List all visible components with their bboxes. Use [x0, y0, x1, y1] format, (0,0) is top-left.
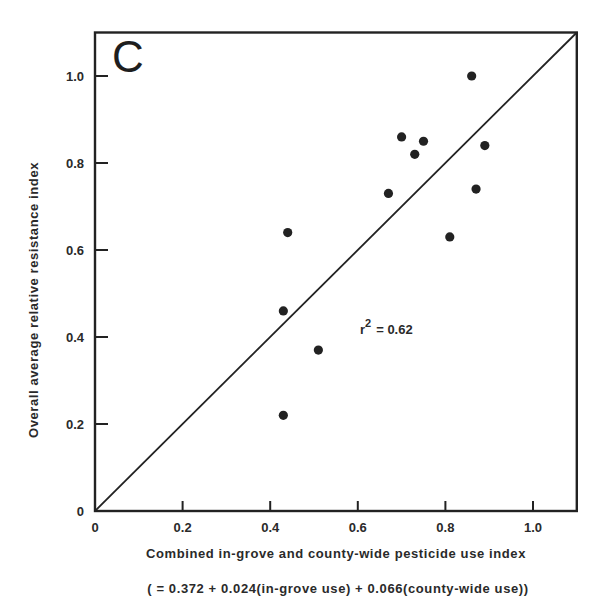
data-point: [384, 189, 393, 198]
y-tick-label: 0.6: [66, 243, 84, 258]
one-to-one-line: [95, 33, 577, 512]
y-tick-label: 0.4: [66, 330, 85, 345]
x-axis-formula: ( = 0.372 + 0.024(in-grove use) + 0.066(…: [147, 581, 528, 596]
x-axis-title: Combined in-grove and county-wide pestic…: [146, 546, 526, 561]
x-tick-label: 1.0: [524, 520, 542, 535]
y-tick-label: 0.2: [66, 417, 84, 432]
y-tick-label: 0: [77, 504, 84, 519]
r-superscript: 2: [365, 317, 371, 329]
data-point: [471, 185, 480, 194]
x-tick-label: 0.8: [436, 520, 454, 535]
x-tick-label: 0.4: [261, 520, 280, 535]
r-squared-annotation: r2= 0.62: [360, 317, 413, 337]
data-points: [279, 71, 490, 420]
data-point: [410, 150, 419, 159]
data-point: [397, 132, 406, 141]
y-tick-label: 0.8: [66, 156, 84, 171]
data-point: [467, 71, 476, 80]
data-point: [445, 232, 454, 241]
panel-label: C: [112, 32, 144, 81]
data-point: [279, 411, 288, 420]
x-tick-label: 0.2: [174, 520, 192, 535]
data-point: [283, 228, 292, 237]
y-axis-title: Overall average relative resistance inde…: [26, 162, 41, 438]
data-point: [419, 137, 428, 146]
x-tick-label: 0: [91, 520, 98, 535]
data-point: [279, 306, 288, 315]
scatter-chart: 00.20.40.60.81.0 00.20.40.60.81.0 C r2= …: [0, 0, 600, 610]
x-axis-ticks: 00.20.40.60.81.0: [91, 501, 542, 535]
reference-line: [95, 33, 577, 512]
y-axis-ticks: 00.20.40.60.81.0: [66, 69, 108, 519]
x-tick-label: 0.6: [349, 520, 367, 535]
y-tick-label: 1.0: [66, 69, 84, 84]
data-point: [314, 345, 323, 354]
data-point: [480, 141, 489, 150]
r-squared-value: = 0.62: [376, 322, 413, 337]
